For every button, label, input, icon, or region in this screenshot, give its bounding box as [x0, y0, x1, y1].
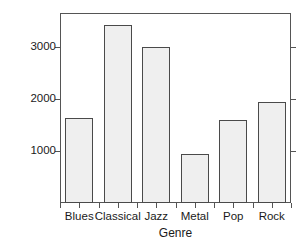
bar-pop: [219, 120, 247, 203]
y-tick-label-1000: 1000: [30, 145, 56, 157]
x-tick-blues: [79, 203, 80, 208]
bar-metal: [181, 154, 209, 203]
x-tick-boundary-6: [291, 203, 292, 208]
y-tick-right-2000: [291, 99, 296, 100]
y-tick-label-3000: 3000: [30, 41, 56, 53]
x-tick-boundary-3: [176, 203, 177, 208]
x-tick-pop: [233, 203, 234, 208]
x-tick-boundary-0: [60, 203, 61, 208]
bar-blues: [65, 118, 93, 203]
y-tick-right-1000: [291, 151, 296, 152]
x-tick-boundary-2: [137, 203, 138, 208]
bar-jazz: [142, 47, 170, 203]
x-tick-label-rock: Rock: [233, 210, 308, 222]
x-tick-rock: [272, 203, 273, 208]
x-axis-title: Genre: [60, 226, 291, 240]
bar-chart: 100020003000 BluesClassicalJazzMetalPopR…: [0, 0, 308, 245]
x-tick-jazz: [156, 203, 157, 208]
bar-classical: [104, 25, 132, 203]
x-tick-boundary-4: [214, 203, 215, 208]
x-tick-boundary-5: [253, 203, 254, 208]
y-tick-label-2000: 2000: [30, 93, 56, 105]
x-tick-classical: [118, 203, 119, 208]
bar-rock: [258, 102, 286, 204]
x-tick-boundary-1: [99, 203, 100, 208]
y-tick-right-3000: [291, 47, 296, 48]
plot-area: [60, 13, 291, 203]
x-tick-metal: [195, 203, 196, 208]
